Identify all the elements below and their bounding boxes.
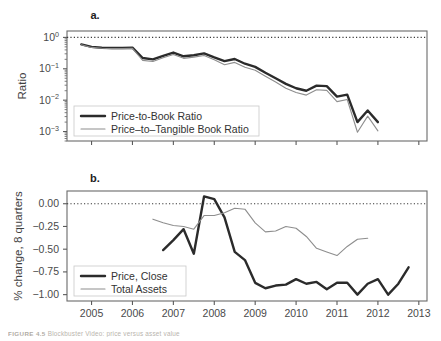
x-tick-label: 2008 [203, 307, 227, 319]
figure-container: a.10010−110−210−3RatioPrice-to-Book Rati… [0, 0, 441, 341]
figure-caption: FIGURE 4.5 Blockbuster Video: price vers… [8, 330, 438, 337]
x-tick-label: 2011 [326, 307, 349, 319]
x-tick-label: 2013 [407, 307, 431, 319]
y-axis-title: % change, 8 quarters [12, 191, 24, 301]
legend-label-0: Price, Close [111, 270, 168, 282]
y-tick-label: −0.50 [32, 243, 59, 255]
y-tick-label: −0.75 [32, 265, 59, 277]
panel-label-b: b. [90, 172, 100, 184]
legend-label-1: Total Assets [111, 283, 167, 295]
x-tick-label: 2010 [284, 307, 308, 319]
x-tick-label: 2009 [244, 307, 268, 319]
y-axis-title: Ratio [16, 73, 28, 100]
legend-label-0: Price-to-Book Ratio [111, 110, 202, 122]
y-tick-label: −1.00 [32, 288, 59, 300]
x-tick-label: 2007 [162, 307, 186, 319]
two-panel-line-chart: a.10010−110−210−3RatioPrice-to-Book Rati… [0, 0, 441, 341]
legend-label-1: Price–to–Tangible Book Ratio [111, 123, 249, 135]
legend: Price-to-Book RatioPrice–to–Tangible Boo… [74, 106, 259, 136]
x-tick-label: 2006 [121, 307, 145, 319]
y-tick-label: 100 [43, 30, 59, 43]
y-tick-label: 10−3 [39, 124, 59, 137]
figure-caption-text: Blockbuster Video: price versus asset va… [48, 330, 180, 337]
legend: Price, CloseTotal Assets [74, 266, 186, 296]
y-tick-label: 10−1 [39, 61, 59, 74]
x-tick-label: 2012 [366, 307, 390, 319]
figure-caption-label: FIGURE 4.5 [8, 330, 46, 337]
panel-a: a.10010−110−210−3RatioPrice-to-Book Rati… [16, 9, 427, 145]
y-tick-label: 10−2 [39, 92, 59, 105]
x-tick-label: 2005 [80, 307, 104, 319]
series-line-0 [163, 196, 408, 294]
y-tick-label: 0.00 [39, 197, 60, 209]
panel-b: b.0.00−0.25−0.50−0.75−1.0020052006200720… [12, 172, 431, 319]
panel-label-a: a. [90, 9, 99, 21]
y-tick-label: −0.25 [32, 220, 59, 232]
